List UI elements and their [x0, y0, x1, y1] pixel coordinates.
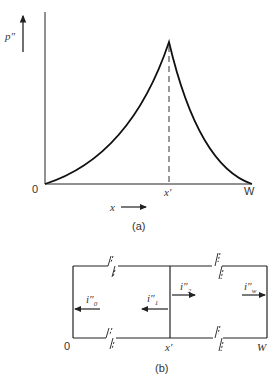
caption-b: (b): [155, 362, 168, 374]
b-origin-label: 0: [64, 340, 70, 352]
figure: p″ 0 x′ W x (a): [0, 0, 278, 381]
panel-a-plot: p″ 0 x′ W x (a): [4, 12, 255, 232]
y-axis-label: p″: [4, 30, 16, 42]
current-iw-label: i″w: [244, 280, 257, 295]
caption-a: (a): [132, 220, 145, 232]
x-axis-label: x: [109, 201, 115, 213]
current-i1-label: i″1: [147, 292, 158, 307]
panel-b-diagram: i″0 i″1 i″2 i″w 0 x′ W (b): [64, 253, 267, 374]
break-mark-icon: [106, 253, 223, 351]
p-curve: [45, 42, 252, 184]
origin-label: 0: [32, 183, 38, 195]
b-w-label: W: [257, 341, 267, 353]
x-prime-label: x′: [163, 186, 172, 198]
w-label: W: [244, 185, 255, 197]
current-i2-label: i″2: [180, 280, 192, 295]
b-x-prime-label: x′: [164, 341, 173, 353]
current-i0-label: i″0: [86, 293, 98, 308]
